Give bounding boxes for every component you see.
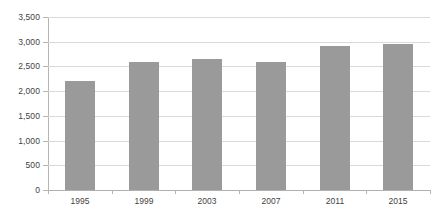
y-axis-tick [43,42,48,43]
x-axis-labels: 199519992003200720112015 [48,195,430,209]
y-axis-tick [43,17,48,18]
x-axis-tick [366,190,367,194]
x-axis-tick [303,190,304,194]
y-axis-tick-label: 500 [2,161,40,170]
x-axis-tick [239,190,240,194]
y-axis-tick [43,91,48,92]
x-axis-tick-label: 2015 [366,195,430,207]
bar [320,46,350,190]
y-axis-tick-label: 3,500 [2,13,40,22]
y-axis-labels: 05001,0001,5002,0002,5003,0003,500 [0,0,40,218]
y-axis-tick [43,66,48,67]
x-axis-tick [430,190,431,194]
bar [65,81,95,190]
y-axis-tick-label: 0 [2,186,40,195]
x-axis-tick-label: 1995 [48,195,112,207]
x-axis-tick-label: 2011 [303,195,367,207]
y-axis-tick [43,116,48,117]
x-axis-tick [175,190,176,194]
bar [129,62,159,190]
bar [256,62,286,190]
plot-area [48,17,430,190]
x-axis-tick-label: 1999 [112,195,176,207]
bars-layer [48,17,430,190]
x-axis-tick [48,190,49,194]
bar [192,59,222,190]
y-axis-tick-label: 2,500 [2,62,40,71]
y-axis-tick [43,190,48,191]
x-axis-tick [112,190,113,194]
y-axis-tick [43,165,48,166]
y-axis-tick-label: 1,500 [2,112,40,121]
y-axis-tick-label: 3,000 [2,38,40,47]
y-axis-tick-label: 2,000 [2,87,40,96]
bar-chart: Vertical bar chart with six gray bars fo… [0,0,446,218]
bar [383,44,413,190]
x-axis-tick-label: 2003 [175,195,239,207]
x-axis-tick-label: 2007 [239,195,303,207]
y-axis-tick-label: 1,000 [2,137,40,146]
y-axis-tick [43,141,48,142]
